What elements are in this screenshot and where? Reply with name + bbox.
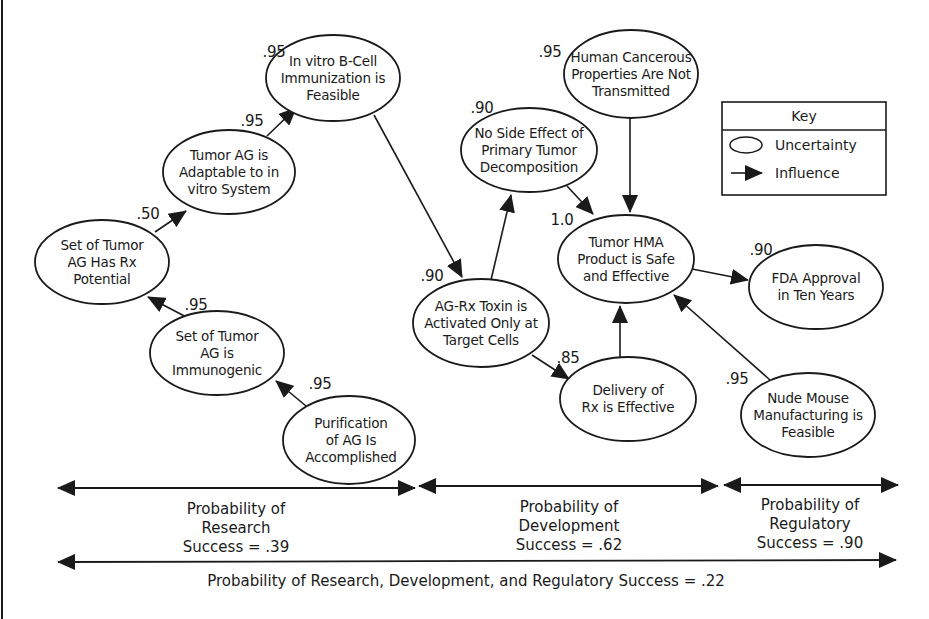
overall-success-label: Probability of Research, Development, an…: [207, 572, 725, 590]
prob-ag-rx-toxin: .90: [421, 267, 444, 285]
phase-label-regulatory: Probability of Regulatory Success = .90: [757, 496, 863, 553]
edge-b-cell-to-toxin: [374, 115, 462, 277]
overall-span-arrow: [58, 560, 896, 562]
prob-fda-approval: .90: [750, 241, 773, 259]
edge-nude-mouse-to-hma: [674, 295, 770, 380]
prob-delivery-of-rx: .85: [557, 349, 580, 367]
prob-nude-mouse-manufacturing: .95: [726, 370, 749, 388]
phase-label-development: Probability of Development Success = .62: [516, 498, 622, 555]
key-title: Key: [791, 108, 816, 124]
phase-label-research: Probability of Research Success = .39: [183, 500, 289, 557]
node-label-purification-of-ag: Purification of AG Is Accomplished: [305, 415, 396, 466]
prob-tumor-ag-rx-potential: .50: [137, 205, 160, 223]
node-label-human-cancerous-properties: Human Cancerous Properties Are Not Trans…: [570, 49, 691, 100]
edge-purification-to-immunogenic: [276, 381, 306, 406]
key-label-uncertainty: Uncertainty: [775, 137, 857, 153]
edge-toxin-to-no-side-effect: [491, 195, 511, 280]
prob-no-side-effect: .90: [471, 99, 494, 117]
edge-no-side-effect-to-hma: [567, 186, 593, 214]
prob-purification-of-ag: .95: [309, 375, 332, 393]
node-label-b-cell-immunization: In vitro B-Cell Immunization is Feasible: [281, 53, 385, 104]
key-label-influence: Influence: [775, 165, 840, 181]
prob-tumor-hma-product: 1.0: [551, 211, 574, 229]
node-label-tumor-ag-rx-potential: Set of Tumor AG Has Rx Potential: [60, 237, 143, 288]
prob-tumor-ag-adaptable: .95: [241, 112, 264, 130]
node-label-no-side-effect: No Side Effect of Primary Tumor Decompos…: [474, 125, 583, 176]
prob-tumor-ag-immunogenic: .95: [185, 296, 208, 314]
node-label-delivery-of-rx: Delivery of Rx is Effective: [582, 382, 675, 416]
node-label-ag-rx-toxin: AG-Rx Toxin is Activated Only at Target …: [424, 298, 538, 349]
node-label-fda-approval: FDA Approval in Ten Years: [772, 270, 861, 304]
node-label-nude-mouse-manufacturing: Nude Mouse Manufacturing is Feasible: [753, 390, 863, 441]
edge-hma-to-fda: [692, 269, 748, 280]
node-label-tumor-ag-adaptable: Tumor AG is Adaptable to in vitro System: [179, 147, 279, 198]
node-label-tumor-hma-product: Tumor HMA Product is Safe and Effective: [577, 234, 675, 285]
prob-b-cell-immunization: .95: [263, 43, 286, 61]
prob-human-cancerous-properties: .95: [539, 43, 562, 61]
node-label-tumor-ag-immunogenic: Set of Tumor AG is Immunogenic: [172, 328, 262, 379]
edge-rx-potential-to-adaptable: [155, 211, 186, 232]
